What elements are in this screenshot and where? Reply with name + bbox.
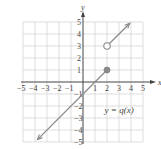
function-line-2 — [107, 23, 130, 46]
piecewise-function-graph: xy−5−4−3−2−11234554321−1−2−3−4−5y = q(x)… — [0, 0, 161, 149]
function-label: y = q(x) — [104, 105, 134, 115]
function-line-1 — [37, 70, 107, 140]
x-tick-label: −1 — [65, 84, 74, 93]
closed-dot-marker — [104, 67, 110, 73]
y-axis-label: y — [80, 3, 85, 12]
x-tick-label: −3 — [41, 84, 50, 93]
x-axis-arrow-icon — [150, 80, 156, 84]
x-tick-label: 3 — [117, 84, 121, 93]
x-tick-label: −4 — [29, 84, 38, 93]
y-tick-label: 3 — [77, 42, 81, 51]
x-tick-label: 1 — [93, 84, 97, 93]
x-tick-label: 2 — [105, 84, 109, 93]
y-tick-label: −4 — [74, 126, 83, 135]
y-tick-label: −1 — [74, 90, 83, 99]
open-circle-marker — [104, 43, 110, 49]
x-tick-label: 5 — [141, 84, 145, 93]
x-axis-label: x — [157, 78, 161, 87]
graph-canvas: xy−5−4−3−2−11234554321−1−2−3−4−5y = q(x) — [0, 0, 161, 149]
x-tick-label: 4 — [129, 84, 133, 93]
y-tick-label: −3 — [74, 114, 83, 123]
y-tick-label: −5 — [74, 138, 83, 147]
y-tick-label: 5 — [77, 18, 81, 27]
x-tick-label: −5 — [17, 84, 26, 93]
y-tick-label: −2 — [74, 102, 83, 111]
y-tick-label: 4 — [77, 30, 81, 39]
y-tick-label: 2 — [77, 54, 81, 63]
y-tick-label: 1 — [77, 66, 81, 75]
x-tick-label: −2 — [53, 84, 62, 93]
